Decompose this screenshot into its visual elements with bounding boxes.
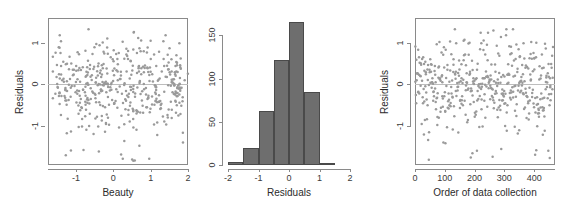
x-tick-label: 2 bbox=[347, 174, 352, 183]
y-tick-label: 0 bbox=[208, 162, 217, 167]
panel-histogram-residuals: -2-1012Residuals050100150 bbox=[200, 0, 365, 210]
x-tick-label: -2 bbox=[224, 174, 232, 183]
x-tick bbox=[259, 169, 260, 172]
histogram-bar bbox=[289, 22, 304, 165]
x-tick bbox=[228, 169, 229, 172]
histogram-bar bbox=[259, 111, 274, 165]
x-tick-label: -1 bbox=[254, 174, 262, 183]
scatter-points-order bbox=[365, 0, 565, 210]
residual-diagnostics-figure: -1012Beauty-101Residuals -2-1012Residual… bbox=[0, 0, 565, 210]
x-tick-label: 1 bbox=[317, 174, 322, 183]
y-axis-line bbox=[222, 35, 223, 165]
y-tick-label: 50 bbox=[208, 117, 217, 127]
histogram-bar bbox=[228, 162, 243, 165]
y-tick bbox=[219, 35, 223, 36]
y-tick-label: 100 bbox=[208, 71, 217, 86]
histogram-bar bbox=[304, 92, 319, 166]
y-tick-label: 150 bbox=[208, 28, 217, 43]
panel-residuals-vs-beauty: -1012Beauty-101Residuals bbox=[0, 0, 200, 210]
y-tick bbox=[219, 122, 223, 123]
scatter-points-beauty bbox=[0, 0, 200, 210]
y-tick bbox=[219, 79, 223, 80]
histogram-bar bbox=[243, 148, 258, 165]
x-axis-title: Residuals bbox=[267, 188, 311, 198]
histogram-bar bbox=[274, 60, 289, 165]
x-tick-label: 0 bbox=[286, 174, 291, 183]
panel-residuals-vs-order: 0100200300400Order of data collection-10… bbox=[365, 0, 565, 210]
y-tick bbox=[219, 165, 223, 166]
x-tick bbox=[350, 169, 351, 172]
x-tick bbox=[320, 169, 321, 172]
histogram-bar bbox=[320, 163, 335, 165]
x-tick bbox=[289, 169, 290, 172]
